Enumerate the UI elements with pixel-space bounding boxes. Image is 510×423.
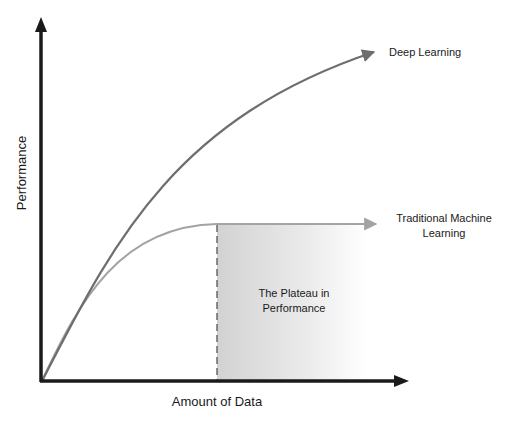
traditional-ml-label-line1: Traditional Machine: [396, 212, 492, 224]
diagram-canvas: Deep Learning Traditional Machine Learni…: [0, 0, 510, 423]
y-axis-label: Performance: [14, 136, 29, 210]
traditional-ml-label-line2: Learning: [423, 227, 466, 239]
deep-learning-label: Deep Learning: [389, 46, 461, 58]
x-axis-label: Amount of Data: [172, 394, 263, 409]
plateau-label-line1: The Plateau in: [259, 287, 330, 299]
x-axis-arrow-icon: [394, 375, 409, 387]
y-axis-arrow-icon: [35, 17, 47, 32]
plateau-label-line2: Performance: [263, 302, 326, 314]
y-axis: [35, 17, 47, 382]
